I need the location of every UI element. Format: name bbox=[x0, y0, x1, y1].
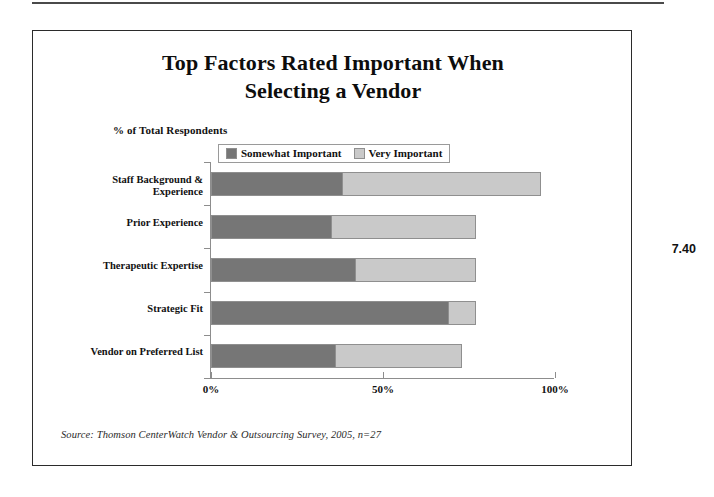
figure-frame: Top Factors Rated Important When Selecti… bbox=[32, 30, 632, 466]
bar-segment bbox=[335, 344, 462, 368]
y-axis-tick bbox=[204, 378, 210, 379]
bar-row bbox=[211, 172, 541, 196]
x-axis-line bbox=[210, 378, 554, 379]
bar-segment bbox=[211, 344, 335, 368]
y-axis-tick bbox=[204, 205, 210, 206]
bar-segment bbox=[211, 301, 448, 325]
bar-segment bbox=[211, 258, 355, 282]
bar-segment bbox=[211, 215, 331, 239]
y-axis-category-label: Prior Experience bbox=[73, 217, 203, 230]
y-axis-category-labels: Staff Background & ExperiencePrior Exper… bbox=[73, 165, 203, 365]
bar-series-group bbox=[211, 162, 555, 378]
bar-row bbox=[211, 344, 462, 368]
y-axis-tick bbox=[204, 248, 210, 249]
chart-plot-area: Staff Background & ExperiencePrior Exper… bbox=[33, 31, 633, 467]
y-axis-tick bbox=[204, 335, 210, 336]
page-number: 7.40 bbox=[672, 242, 696, 256]
bar-row bbox=[211, 215, 476, 239]
x-axis-tick-label: 100% bbox=[541, 383, 569, 395]
x-axis-tick-label: 50% bbox=[372, 383, 394, 395]
y-axis-category-label: Staff Background & Experience bbox=[73, 174, 203, 199]
y-axis-tick bbox=[204, 292, 210, 293]
y-axis-category-label: Vendor on Preferred List bbox=[73, 346, 203, 359]
bar-segment bbox=[211, 172, 342, 196]
y-axis-category-label: Strategic Fit bbox=[73, 303, 203, 316]
x-axis-tick bbox=[555, 372, 556, 378]
x-axis-tick-label: 0% bbox=[203, 383, 220, 395]
bar-segment bbox=[342, 172, 542, 196]
bar-segment bbox=[331, 215, 475, 239]
y-axis-category-label: Therapeutic Expertise bbox=[73, 260, 203, 273]
page-top-rule bbox=[32, 2, 664, 4]
source-note: Source: Thomson CenterWatch Vendor & Out… bbox=[61, 429, 381, 440]
y-axis-tick bbox=[204, 162, 210, 163]
bar-row bbox=[211, 301, 476, 325]
bar-segment bbox=[448, 301, 476, 325]
bar-row bbox=[211, 258, 476, 282]
bar-segment bbox=[355, 258, 475, 282]
